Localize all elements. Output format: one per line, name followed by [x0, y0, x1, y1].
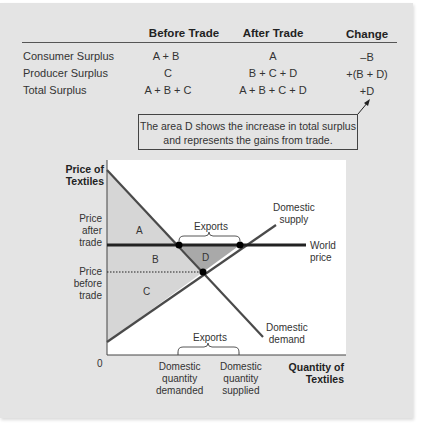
origin-label: 0: [97, 358, 103, 370]
world-price-label: World price: [310, 240, 336, 264]
region-d-label: D: [202, 252, 209, 264]
y-axis-label: Price of Textiles: [65, 163, 104, 187]
exports-label-bottom: Exports: [193, 332, 227, 344]
region-c-label: C: [143, 286, 150, 298]
price-before-trade-label: Price before trade: [74, 266, 102, 302]
region-b-label: B: [152, 254, 159, 266]
region-a-label: A: [136, 225, 143, 237]
supply-demand-graph: [0, 0, 433, 435]
domestic-demand-label: Domestic demand: [266, 322, 308, 346]
domestic-supply-label: Domestic supply: [273, 202, 315, 226]
callout-arrow-icon: [358, 99, 370, 114]
quantity-demanded-label: Domestic quantity demanded: [156, 361, 203, 397]
exports-brace-bottom: [178, 343, 239, 352]
point-quantity-demanded: [176, 242, 183, 249]
quantity-supplied-label: Domestic quantity supplied: [220, 361, 262, 397]
price-after-trade-label: Price after trade: [79, 213, 102, 249]
x-axis-label: Quantity of Textiles: [289, 361, 344, 385]
exports-label-top: Exports: [194, 221, 228, 233]
point-equilibrium: [200, 269, 207, 276]
exports-brace-top: [179, 232, 240, 241]
point-quantity-supplied: [237, 242, 244, 249]
